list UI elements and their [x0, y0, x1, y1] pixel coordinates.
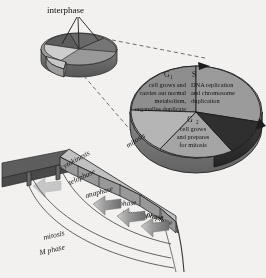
g2-line-1: cell grows	[180, 125, 207, 132]
g1-subscript: 1	[170, 74, 173, 80]
g1-line-4: organelles duplicate	[135, 105, 186, 112]
cell-cycle-diagram: interphase G 1 cell grows and carries ou…	[0, 0, 266, 278]
s-line-3: duplication	[191, 97, 221, 104]
g2-name: G	[187, 115, 193, 124]
g1-line-1: cell grows and	[149, 81, 187, 88]
g2-line-2: and prepares	[177, 133, 210, 140]
g1-line-2: carries out normal	[140, 89, 187, 96]
s-line-1: DNA replication	[191, 81, 234, 88]
s-line-2: and chromosome	[191, 89, 235, 96]
g1-line-3: metabolism,	[155, 97, 187, 104]
g2-line-3: for mitosis	[179, 141, 207, 148]
interphase-label: interphase	[47, 5, 84, 15]
s-name: S	[192, 70, 196, 79]
